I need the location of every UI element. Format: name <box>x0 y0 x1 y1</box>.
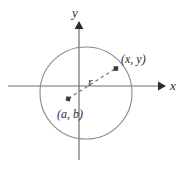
circle-point-marker <box>114 66 119 71</box>
center-point-label: (a, b) <box>57 108 83 120</box>
center-point-marker <box>66 96 71 101</box>
x-axis-arrowhead <box>158 82 166 91</box>
y-axis-arrowhead <box>75 21 84 29</box>
diagram-canvas <box>0 0 187 171</box>
circle-curve <box>40 47 132 139</box>
point-on-circle-label: (x, y) <box>121 53 146 65</box>
radius-label: r <box>88 76 93 88</box>
y-axis-label: y <box>72 6 78 19</box>
x-axis-label: x <box>170 79 176 92</box>
circle-diagram-figure: y x (x, y) (a, b) r <box>0 0 187 171</box>
